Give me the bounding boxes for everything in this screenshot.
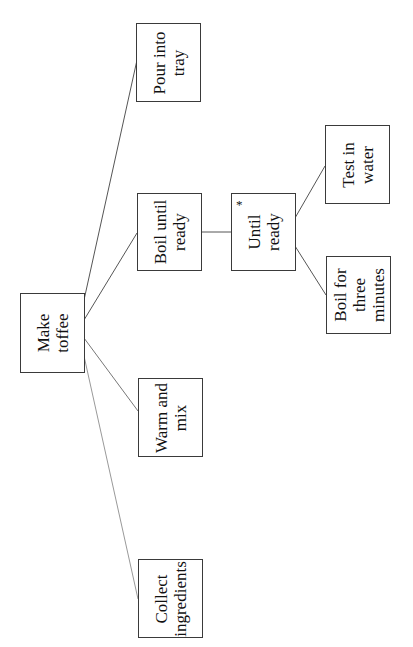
node-make-toffee: Make toffee bbox=[20, 293, 85, 373]
edge-until-boil3 bbox=[295, 246, 326, 295]
node-boil-for-three-minutes: Boil for three minutes bbox=[326, 256, 391, 334]
edge-root-pour bbox=[84, 60, 137, 300]
edge-root-boil bbox=[84, 233, 137, 320]
node-label: Collect ingredients bbox=[152, 561, 190, 637]
node-test-in-water: Test in water bbox=[325, 125, 390, 204]
node-collect-ingredients: Collect ingredients bbox=[138, 559, 203, 638]
node-label: Make toffee bbox=[34, 313, 72, 352]
node-boil-until-ready: Boil until ready bbox=[137, 193, 202, 271]
node-label: Boil until ready bbox=[151, 200, 189, 265]
edge-root-collect bbox=[84, 356, 138, 599]
node-pour-into-tray: Pour into tray bbox=[136, 23, 201, 102]
node-until-ready: * Until ready bbox=[231, 193, 296, 271]
node-label: Pour into tray bbox=[150, 31, 188, 94]
node-label: Test in water bbox=[339, 142, 377, 188]
edge-until-test bbox=[295, 166, 325, 218]
node-warm-and-mix: Warm and mix bbox=[138, 378, 203, 457]
node-label: Warm and mix bbox=[152, 383, 190, 453]
iteration-marker: * bbox=[236, 197, 243, 213]
structure-chart: Make toffee Pour into tray Boil until re… bbox=[0, 0, 413, 647]
node-label: Until ready bbox=[245, 213, 283, 251]
edge-root-warm bbox=[84, 338, 138, 411]
node-label: Boil for three minutes bbox=[330, 268, 387, 322]
